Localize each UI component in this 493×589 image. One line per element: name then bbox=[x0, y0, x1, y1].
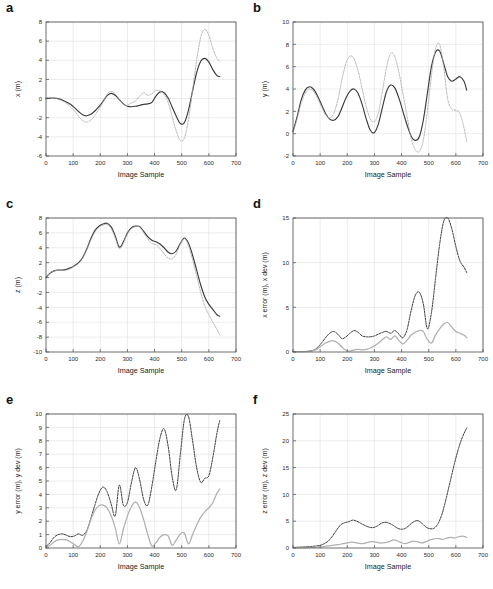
y-tick-label: 4 bbox=[39, 492, 43, 498]
chart-f: 01002003004005006007000510152025Image Sa… bbox=[247, 392, 493, 588]
y-tick-label: 6 bbox=[39, 38, 43, 44]
axis-frame bbox=[293, 414, 483, 548]
x-tick-label: 200 bbox=[95, 160, 106, 166]
x-tick-label: 300 bbox=[369, 552, 380, 558]
y-tick-label: 15 bbox=[282, 215, 289, 221]
panel-letter-d: d bbox=[253, 196, 261, 211]
x-tick-label: 100 bbox=[315, 356, 326, 362]
y-tick-label: -10 bbox=[33, 349, 42, 355]
x-tick-label: 0 bbox=[291, 356, 295, 362]
y-tick-label: 15 bbox=[282, 465, 289, 471]
y-tick-label: 8 bbox=[39, 438, 43, 444]
x-tick-label: 0 bbox=[291, 160, 295, 166]
panel-b: b 0100200300400500600700-20246810Image S… bbox=[247, 0, 493, 196]
y-tick-label: 5 bbox=[286, 305, 290, 311]
y-tick-label: 5 bbox=[39, 478, 43, 484]
x-tick-label: 0 bbox=[44, 552, 48, 558]
x-tick-label: 600 bbox=[451, 160, 462, 166]
series-x-dev bbox=[293, 322, 467, 351]
x-tick-label: 100 bbox=[68, 552, 79, 558]
y-tick-label: 10 bbox=[282, 260, 289, 266]
chart-b: 0100200300400500600700-20246810Image Sam… bbox=[247, 0, 493, 196]
x-tick-label: 400 bbox=[397, 356, 408, 362]
x-tick-label: 700 bbox=[231, 160, 242, 166]
x-tick-label: 700 bbox=[478, 160, 489, 166]
x-axis-title: Image Sample bbox=[365, 170, 411, 179]
panel-a: a 0100200300400500600700-6-4-202468Image… bbox=[0, 0, 246, 196]
x-tick-label: 700 bbox=[231, 552, 242, 558]
x-tick-label: 100 bbox=[68, 160, 79, 166]
y-tick-label: 2 bbox=[39, 77, 43, 83]
y-tick-label: 8 bbox=[39, 19, 43, 25]
y-tick-label: 2 bbox=[286, 109, 290, 115]
y-tick-label: 0 bbox=[39, 275, 43, 281]
y-tick-label: 9 bbox=[39, 425, 43, 431]
y-tick-label: 8 bbox=[39, 215, 43, 221]
chart-e: 0100200300400500600700012345678910Image … bbox=[0, 392, 246, 588]
y-tick-label: -2 bbox=[37, 290, 43, 296]
x-tick-label: 200 bbox=[342, 552, 353, 558]
x-tick-label: 300 bbox=[122, 552, 133, 558]
x-tick-label: 0 bbox=[44, 356, 48, 362]
y-tick-label: 20 bbox=[282, 438, 289, 444]
panel-d: d 0100200300400500600700051015Image Samp… bbox=[247, 196, 493, 392]
x-axis-title: Image Sample bbox=[365, 562, 411, 571]
x-tick-label: 600 bbox=[451, 356, 462, 362]
x-tick-label: 500 bbox=[424, 160, 435, 166]
x-tick-label: 100 bbox=[315, 552, 326, 558]
y-tick-label: 25 bbox=[282, 411, 289, 417]
y-tick-label: -6 bbox=[37, 153, 43, 159]
series-estimated-y bbox=[293, 50, 467, 141]
y-tick-label: 7 bbox=[39, 451, 43, 457]
y-axis-title: z error (m), z dev (m) bbox=[261, 448, 269, 514]
x-tick-label: 0 bbox=[291, 552, 295, 558]
y-tick-label: 6 bbox=[39, 230, 43, 236]
x-tick-label: 200 bbox=[342, 356, 353, 362]
y-tick-label: 4 bbox=[39, 57, 43, 63]
x-tick-label: 700 bbox=[231, 356, 242, 362]
y-tick-label: 4 bbox=[286, 86, 290, 92]
y-tick-label: 1 bbox=[39, 532, 43, 538]
y-tick-label: -2 bbox=[284, 153, 290, 159]
y-tick-label: 0 bbox=[286, 131, 290, 137]
x-axis-title: Image Sample bbox=[118, 366, 164, 375]
series-reference-z bbox=[46, 224, 220, 334]
x-tick-label: 400 bbox=[397, 552, 408, 558]
x-axis-title: Image Sample bbox=[118, 562, 164, 571]
y-axis-title: x error (m), x dev (m) bbox=[261, 252, 269, 318]
y-tick-label: -2 bbox=[37, 115, 43, 121]
y-tick-label: 0 bbox=[39, 545, 43, 551]
x-tick-label: 500 bbox=[177, 356, 188, 362]
chart-a: 0100200300400500600700-6-4-202468Image S… bbox=[0, 0, 246, 196]
y-axis-title: x (m) bbox=[14, 81, 22, 97]
y-axis-title: y error (m), y dev (m) bbox=[14, 448, 22, 514]
x-tick-label: 300 bbox=[369, 160, 380, 166]
axis-frame bbox=[46, 22, 236, 156]
x-axis-title: Image Sample bbox=[118, 170, 164, 179]
y-tick-label: -8 bbox=[37, 334, 43, 340]
y-axis-title: z (m) bbox=[14, 277, 22, 293]
y-tick-label: 6 bbox=[286, 64, 290, 70]
x-tick-label: 100 bbox=[315, 160, 326, 166]
y-tick-label: 10 bbox=[282, 492, 289, 498]
x-tick-label: 500 bbox=[424, 552, 435, 558]
x-tick-label: 600 bbox=[204, 356, 215, 362]
series-reference-y bbox=[293, 43, 467, 152]
panel-letter-a: a bbox=[6, 0, 13, 15]
x-tick-label: 600 bbox=[204, 552, 215, 558]
y-tick-label: -4 bbox=[37, 134, 43, 140]
y-tick-label: 10 bbox=[282, 19, 289, 25]
x-tick-label: 200 bbox=[95, 356, 106, 362]
x-tick-label: 500 bbox=[424, 356, 435, 362]
series-y-error bbox=[46, 414, 220, 546]
x-tick-label: 400 bbox=[397, 160, 408, 166]
x-tick-label: 200 bbox=[95, 552, 106, 558]
x-tick-label: 300 bbox=[369, 356, 380, 362]
y-tick-label: -6 bbox=[37, 319, 43, 325]
x-tick-label: 0 bbox=[44, 160, 48, 166]
x-tick-label: 700 bbox=[478, 552, 489, 558]
x-axis-title: Image Sample bbox=[365, 366, 411, 375]
figure-panel-grid: a 0100200300400500600700-6-4-202468Image… bbox=[0, 0, 493, 589]
panel-letter-f: f bbox=[253, 392, 257, 407]
chart-d: 0100200300400500600700051015Image Sample… bbox=[247, 196, 493, 392]
